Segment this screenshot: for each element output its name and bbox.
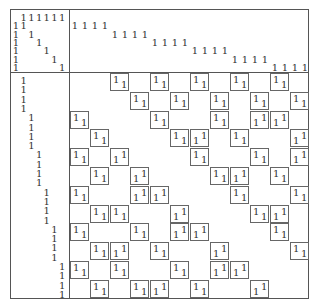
matrix-entry: 1 (213, 94, 219, 104)
matrix-entry: 1 (221, 118, 227, 128)
matrix-entry: 1 (261, 55, 269, 65)
matrix-entry: 1 (181, 99, 187, 109)
matrix-entry: 1 (153, 193, 159, 203)
matrix-entry: 1 (73, 188, 79, 198)
matrix-entry: 1 (101, 136, 107, 146)
matrix-entry: 1 (301, 99, 307, 109)
matrix-entry: 1 (73, 150, 79, 160)
boxed-2x2-block: 11 (130, 223, 149, 241)
matrix-entry: 1 (81, 118, 87, 128)
boxed-2x2-block: 11 (210, 242, 229, 260)
boxed-2x2-block: 11 (210, 167, 229, 185)
matrix-entry: 1 (293, 155, 299, 165)
matrix-entry: 1 (281, 80, 287, 90)
block-matrix: 1111111111111111111111111111111111111111… (10, 9, 309, 299)
matrix-entry: 1 (273, 225, 279, 235)
matrix-entry: 1 (173, 212, 179, 222)
matrix-entry: 1 (153, 113, 159, 123)
matrix-entry: 1 (233, 75, 239, 85)
boxed-2x2-block: 11 (70, 261, 89, 279)
matrix-entry: 1 (181, 207, 187, 217)
boxed-2x2-block: 11 (250, 111, 269, 129)
matrix-entry: 1 (241, 80, 247, 90)
matrix-entry: 1 (201, 80, 207, 90)
boxed-2x2-block: 11 (250, 92, 269, 110)
matrix-entry: 1 (181, 225, 187, 235)
boxed-2x2-block: 11 (130, 92, 149, 110)
matrix-entry: 1 (141, 230, 147, 240)
matrix-entry: 1 (153, 287, 159, 297)
matrix-entry: 1 (181, 38, 189, 48)
matrix-entry: 1 (213, 268, 219, 278)
matrix-entry: 1 (121, 212, 127, 222)
boxed-2x2-block: 11 (210, 261, 229, 279)
matrix-entry: 1 (133, 282, 139, 292)
matrix-entry: 1 (93, 244, 99, 254)
matrix-entry: 1 (221, 174, 227, 184)
matrix-entry: 1 (273, 75, 279, 85)
matrix-entry: 1 (141, 99, 147, 109)
matrix-entry: 1 (181, 136, 187, 146)
boxed-2x2-block: 11 (130, 167, 149, 185)
matrix-entry: 1 (81, 230, 87, 240)
matrix-entry: 1 (121, 268, 127, 278)
matrix-entry: 1 (133, 174, 139, 184)
matrix-entry: 1 (173, 263, 179, 273)
boxed-2x2-block: 11 (270, 223, 289, 241)
matrix-entry: 1 (58, 290, 66, 300)
matrix-entry: 1 (221, 99, 227, 109)
matrix-entry: 1 (101, 249, 107, 259)
boxed-2x2-block: 11 (290, 148, 309, 166)
matrix-entry: 1 (281, 63, 289, 73)
matrix-entry: 1 (233, 268, 239, 278)
matrix-entry: 1 (213, 249, 219, 259)
boxed-2x2-block: 11 (110, 205, 129, 223)
matrix-entry: 1 (253, 150, 259, 160)
boxed-2x2-block: 11 (110, 242, 129, 260)
matrix-entry: 1 (101, 212, 107, 222)
matrix-entry: 1 (73, 263, 79, 273)
boxed-2x2-block: 11 (290, 186, 309, 204)
matrix-entry: 1 (161, 38, 169, 48)
matrix-entry: 1 (113, 263, 119, 273)
matrix-entry: 1 (58, 13, 66, 23)
matrix-entry: 1 (253, 94, 259, 104)
matrix-entry: 1 (191, 46, 199, 56)
boxed-2x2-block: 11 (270, 205, 289, 223)
boxed-2x2-block: 11 (170, 205, 189, 223)
boxed-2x2-block: 11 (290, 92, 309, 110)
matrix-entry: 1 (71, 21, 79, 31)
boxed-2x2-block: 11 (130, 280, 149, 298)
matrix-entry: 1 (231, 55, 239, 65)
boxed-2x2-block: 11 (90, 280, 109, 298)
matrix-entry: 1 (281, 207, 287, 217)
matrix-entry: 1 (301, 249, 307, 259)
matrix-entry: 1 (281, 113, 287, 123)
matrix-entry: 1 (12, 63, 20, 73)
matrix-entry: 1 (181, 268, 187, 278)
boxed-2x2-block: 11 (230, 129, 249, 147)
matrix-entry: 1 (293, 94, 299, 104)
matrix-entry: 1 (133, 193, 139, 203)
matrix-entry: 1 (273, 118, 279, 128)
matrix-entry: 1 (201, 131, 207, 141)
matrix-entry: 1 (121, 80, 127, 90)
matrix-entry: 1 (193, 136, 199, 146)
matrix-entry: 1 (261, 282, 267, 292)
matrix-entry: 1 (293, 136, 299, 146)
matrix-entry: 1 (113, 75, 119, 85)
boxed-2x2-block: 11 (190, 129, 209, 147)
matrix-entry: 1 (221, 244, 227, 254)
boxed-2x2-block: 11 (170, 129, 189, 147)
matrix-entry: 1 (173, 230, 179, 240)
boxed-2x2-block: 11 (150, 111, 169, 129)
matrix-entry: 1 (121, 150, 127, 160)
matrix-entry: 1 (233, 174, 239, 184)
matrix-entry: 1 (161, 80, 167, 90)
matrix-entry: 1 (301, 193, 307, 203)
matrix-entry: 1 (213, 113, 219, 123)
matrix-entry: 1 (161, 282, 167, 292)
matrix-entry: 1 (301, 150, 307, 160)
boxed-2x2-block: 11 (90, 167, 109, 185)
matrix-entry: 1 (73, 225, 79, 235)
